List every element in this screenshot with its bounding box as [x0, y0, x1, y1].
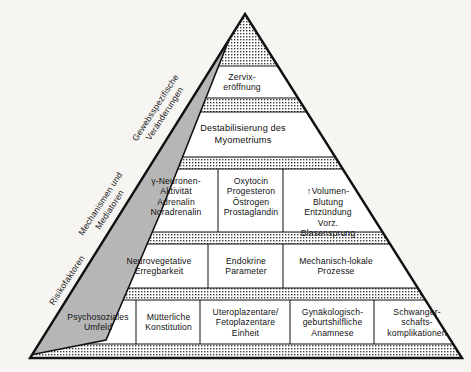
separator-band-3	[0, 232, 471, 244]
separator-band-1	[0, 98, 471, 112]
apex-stipple-fill	[0, 0, 471, 66]
pyramid-diagram: Zervix- eröffnung Destabilisierung des M…	[0, 0, 471, 372]
pyramid-graphic	[0, 0, 471, 372]
separator-band-2	[0, 157, 471, 169]
